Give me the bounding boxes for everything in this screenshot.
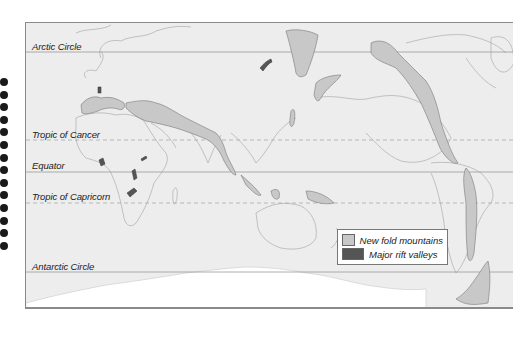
antarctica [26, 267, 426, 309]
alaska-rockies [371, 41, 458, 163]
antarctic-peninsula [456, 261, 490, 304]
east-africa-rift-north [141, 156, 147, 161]
binding-ring [0, 242, 8, 250]
binding-ring [0, 91, 8, 99]
map-canvas [26, 23, 513, 309]
antarctic-circle-label: Antarctic Circle [32, 261, 94, 272]
world-map: Arctic Circle Tropic of Cancer Equator T… [25, 22, 513, 309]
binding-ring [0, 103, 8, 111]
himalaya-belt [126, 101, 236, 175]
kamchatka-region [286, 30, 318, 77]
new-guinea [306, 191, 334, 204]
binding-ring [0, 217, 8, 225]
legend-label: New fold mountains [360, 235, 443, 246]
binding-ring [0, 128, 8, 136]
tropic-of-cancer-label: Tropic of Cancer [32, 129, 100, 140]
sumatra [241, 175, 261, 195]
east-africa-rift-south [127, 188, 137, 197]
binding-ring [0, 166, 8, 174]
binding-ring [0, 204, 8, 212]
alps-region [81, 97, 125, 114]
binding-ring [0, 78, 8, 86]
binding-ring [0, 229, 8, 237]
binding-ring [0, 179, 8, 187]
sulawesi [271, 189, 279, 199]
baikal-rift [260, 59, 272, 71]
rift-valleys-swatch [342, 248, 364, 260]
east-africa-rift-mid [132, 169, 137, 180]
legend-label: Major rift valleys [369, 249, 438, 260]
binding-ring [0, 116, 8, 124]
fold-mountains-swatch [342, 234, 355, 246]
binding-ring [0, 191, 8, 199]
equator-label: Equator [32, 160, 65, 171]
japan [290, 110, 295, 127]
legend-item-rift-valleys: Major rift valleys [342, 247, 443, 261]
binding-ring [0, 141, 8, 149]
legend-item-fold-mountains: New fold mountains [342, 233, 443, 247]
arctic-circle-label: Arctic Circle [32, 41, 81, 52]
map-legend: New fold mountains Major rift valleys [337, 229, 448, 265]
rhine-rift [98, 87, 101, 93]
binding-ring [0, 154, 8, 162]
tropic-of-capricorn-label: Tropic of Capricorn [32, 191, 110, 202]
spiral-binding [0, 78, 10, 254]
andes [464, 168, 477, 261]
